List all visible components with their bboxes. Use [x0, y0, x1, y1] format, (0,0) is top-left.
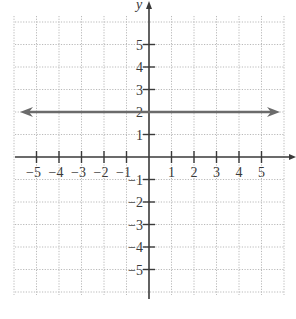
y-tick-label: −4 [128, 240, 143, 255]
x-axis-arrow-icon [289, 154, 296, 160]
x-tick-label: 4 [236, 165, 243, 180]
x-tick-labels: −5−4−3−2−112345 [26, 165, 265, 180]
y-tick-label: −2 [128, 195, 143, 210]
y-tick-label: 5 [136, 38, 143, 53]
y-tick-label: 4 [136, 60, 143, 75]
x-tick-label: 1 [168, 165, 175, 180]
x-tick-label: −2 [94, 165, 109, 180]
y-axis-arrow-icon [146, 1, 152, 9]
y-tick-label: −1 [128, 173, 143, 188]
x-tick-label: −4 [49, 165, 64, 180]
y-tick-label: 1 [136, 128, 143, 143]
x-tick-label: 3 [213, 165, 220, 180]
y-tick-label: −3 [128, 218, 143, 233]
x-tick-label: 5 [258, 165, 265, 180]
axes [15, 1, 296, 299]
y-tick-label: 3 [136, 83, 143, 98]
y-axis-label: y [134, 0, 143, 12]
y-tick-label: −5 [128, 263, 143, 278]
x-tick-label: 2 [191, 165, 198, 180]
coordinate-plane: −5−4−3−2−112345 54321−1−2−3−4−5 y [0, 0, 296, 319]
x-tick-label: −5 [26, 165, 41, 180]
x-tick-label: −3 [71, 165, 86, 180]
